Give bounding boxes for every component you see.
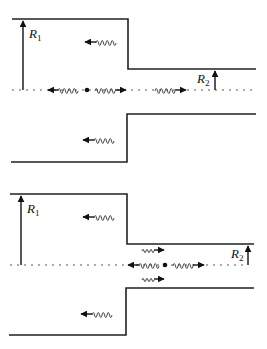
point-source-icon bbox=[163, 263, 168, 268]
wave-left-lower-icon bbox=[81, 313, 112, 318]
bottom-upper-wall bbox=[10, 194, 254, 244]
wave-left-upper-icon bbox=[85, 41, 116, 46]
wave-narrow-upper-right-icon bbox=[142, 249, 164, 253]
top-upper-wall bbox=[12, 19, 256, 69]
wave-axis-left-icon bbox=[48, 89, 78, 94]
top-lower-wall bbox=[11, 114, 256, 162]
top-r2-label: R2 bbox=[196, 71, 209, 88]
wave-left-upper-icon bbox=[83, 216, 114, 221]
wave-left-lower-icon bbox=[83, 139, 114, 144]
wave-axis-left-icon bbox=[128, 264, 159, 269]
wave-axis-right-icon bbox=[173, 264, 204, 269]
bottom-r1-label: R1 bbox=[26, 201, 39, 218]
top-panel: R1 R2 bbox=[11, 19, 256, 162]
bottom-r2-label: R2 bbox=[230, 246, 243, 263]
point-source-icon bbox=[85, 88, 90, 93]
waveguide-step-diagram: R1 R2 R1 R2 bbox=[0, 0, 267, 349]
bottom-lower-wall bbox=[9, 288, 254, 335]
wave-axis-right-icon bbox=[95, 89, 126, 94]
wave-narrow-right-icon bbox=[155, 89, 186, 94]
bottom-panel: R1 R2 bbox=[9, 194, 254, 335]
top-r1-label: R1 bbox=[28, 26, 41, 43]
wave-narrow-lower-right-icon bbox=[142, 278, 164, 282]
